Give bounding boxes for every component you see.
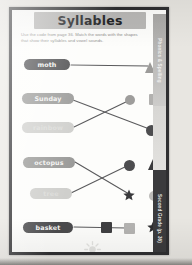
section-tab-second-grade-label: Second Grade (p. 36): [157, 194, 162, 243]
instructions-line-2: that show their syllables and vowel soun…: [21, 38, 161, 44]
word-pill-moth[interactable]: moth: [24, 59, 70, 70]
shape-star-6[interactable]: [123, 189, 135, 201]
shape-circle-4[interactable]: [124, 160, 135, 171]
title-banner: Syllables: [34, 12, 146, 29]
section-tab-phonics-spelling[interactable]: Phonics & Spelling: [153, 14, 166, 106]
instructions-text: Use the code from page 36. Match the wor…: [21, 32, 161, 43]
word-pill-sunday[interactable]: Sunday: [22, 93, 74, 104]
shape-square-8[interactable]: [101, 222, 112, 233]
shape-circle-1[interactable]: [125, 95, 135, 105]
sun-watermark-icon: [84, 241, 101, 252]
scanned-page-background: Syllables Use the code from page 36. Mat…: [0, 0, 192, 265]
connector-Sunday-to-circle: [73, 100, 152, 130]
connector-moth-to-triangle: [71, 65, 148, 66]
word-pill-octopus[interactable]: octopus: [23, 157, 75, 168]
page-bottom-shadow: [0, 258, 192, 265]
connector-octopus-to-star: [75, 162, 129, 194]
word-pill-basket[interactable]: basket: [23, 222, 73, 233]
word-pill-rainbow[interactable]: rainbow: [22, 122, 74, 133]
word-pill-tree[interactable]: tree: [30, 188, 72, 199]
page-title: Syllables: [57, 13, 122, 29]
connector-tree-to-circle: [71, 165, 129, 193]
section-tab-second-grade[interactable]: Second Grade (p. 36): [153, 170, 166, 252]
connector-rainbow-to-circle: [74, 100, 130, 127]
shape-square-9[interactable]: [124, 223, 135, 234]
section-tab-phonics-spelling-label: Phonics & Spelling: [157, 38, 162, 82]
section-tab-blank: [153, 106, 166, 170]
worksheet-sheet: Syllables Use the code from page 36. Mat…: [9, 7, 169, 255]
connector-basket-to-square: [74, 227, 126, 228]
worksheet-content-area: Syllables Use the code from page 36. Mat…: [12, 10, 166, 252]
